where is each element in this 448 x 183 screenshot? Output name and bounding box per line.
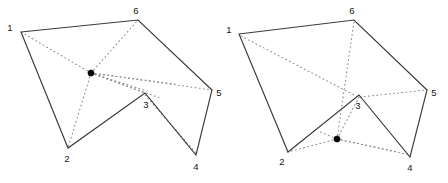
ray-vertex-3-to-vertex-5 bbox=[360, 90, 427, 97]
ray-vertex-1-to-vertex-3 bbox=[241, 36, 358, 97]
ray-point-to-vertex-6 bbox=[91, 20, 138, 73]
left-vertex-label-4: 4 bbox=[193, 161, 198, 172]
left-vertex-label-2: 2 bbox=[64, 153, 69, 164]
left-vertex-label-5: 5 bbox=[216, 87, 221, 98]
ray-point-to-vertex-1 bbox=[21, 32, 91, 73]
ray-point-upper-fan-b bbox=[91, 73, 175, 84]
ray-vertex-6-to-point bbox=[337, 22, 354, 139]
right-kernel-point bbox=[334, 136, 340, 142]
right-vertex-label-5: 5 bbox=[431, 87, 436, 98]
left-vertex-label-1: 1 bbox=[7, 22, 12, 33]
figure-root: 1 2 3 4 5 6 1 bbox=[0, 0, 448, 183]
right-vertex-label-6: 6 bbox=[349, 5, 354, 16]
right-vertex-label-4: 4 bbox=[407, 162, 412, 173]
left-panel-rays bbox=[21, 20, 212, 153]
ray-point-to-vertex-2 bbox=[68, 73, 91, 148]
ray-point-to-vertex-5 bbox=[91, 73, 212, 90]
left-panel: 1 2 3 4 5 6 bbox=[7, 5, 221, 172]
right-panel-rays bbox=[241, 22, 427, 155]
right-polygon-boundary bbox=[239, 20, 427, 157]
left-polygon-boundary bbox=[21, 20, 212, 155]
right-vertex-label-3: 3 bbox=[355, 100, 360, 111]
left-vertex-label-6: 6 bbox=[133, 5, 138, 16]
star-polygon-diagram: 1 2 3 4 5 6 1 bbox=[0, 0, 448, 183]
right-vertex-label-1: 1 bbox=[226, 24, 231, 35]
ray-point-lower-fan bbox=[337, 139, 398, 152]
right-vertex-label-2: 2 bbox=[279, 156, 284, 167]
left-vertex-label-3: 3 bbox=[143, 99, 148, 110]
right-panel: 1 2 3 4 5 6 bbox=[226, 5, 436, 173]
ray-point-upper-fan-a bbox=[91, 73, 160, 98]
left-kernel-point bbox=[88, 70, 94, 76]
